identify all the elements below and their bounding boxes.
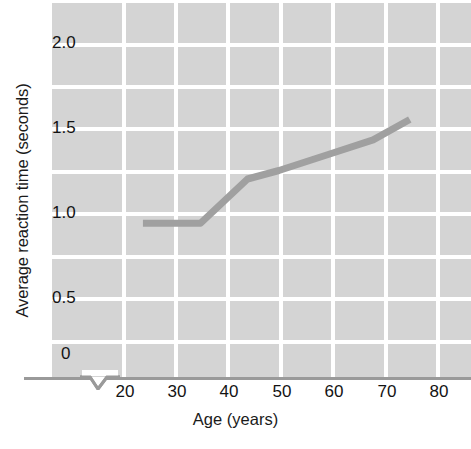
x-axis-title: Age (years)	[0, 410, 471, 429]
y-axis-title-label: Average reaction time (seconds)	[13, 83, 32, 317]
chart-container: Average reaction time (seconds) 2.0 1.5 …	[0, 0, 471, 449]
data-series-line	[48, 3, 471, 377]
y-tick-label: 1.5	[52, 118, 76, 138]
x-tick-label: 70	[367, 382, 407, 402]
x-tick-label: 80	[419, 382, 459, 402]
y-tick-label: 1.0	[52, 203, 76, 223]
x-tick-label: 50	[262, 382, 302, 402]
x-tick-label: 40	[209, 382, 249, 402]
y-axis-title: Average reaction time (seconds)	[0, 0, 44, 400]
x-tick-label: 20	[105, 382, 145, 402]
plot-area	[48, 3, 471, 377]
series-polyline	[143, 120, 410, 224]
y-tick-label: 0	[61, 344, 70, 364]
y-tick-label: 0.5	[52, 288, 76, 308]
x-tick-label: 30	[157, 382, 197, 402]
y-tick-label: 2.0	[52, 33, 76, 53]
x-tick-label: 60	[314, 382, 354, 402]
